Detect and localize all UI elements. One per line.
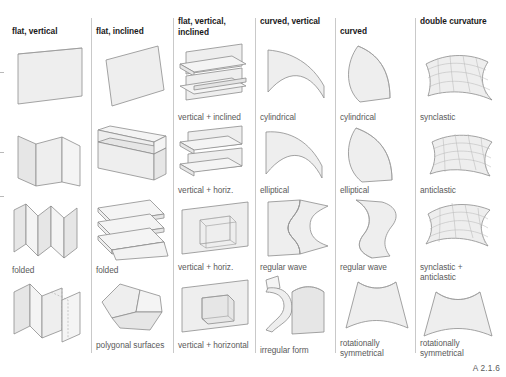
figure-number: A 2.1.6: [473, 363, 500, 373]
caption-vertical-inclined: vertical + inclined: [178, 112, 241, 123]
figure-flat-inclined-bent: [94, 122, 172, 190]
figure-cv-regular-wave: [258, 196, 334, 260]
figure-c-cylindrical: [338, 40, 412, 108]
column-divider-4: [335, 18, 336, 353]
column-divider-2: [173, 18, 174, 353]
column-divider-5: [415, 18, 416, 353]
figure-plane-with-open-box: [176, 198, 256, 260]
figure-sheet: flat, vertical flat, inclined flat, vert…: [0, 0, 506, 377]
caption-polygonal-surfaces: polygonal surfaces: [96, 340, 168, 350]
figure-plane-with-closed-box: [176, 276, 256, 338]
caption-flat-inclined-folded: folded: [96, 265, 118, 276]
caption-c-cylindrical: cylindrical: [340, 112, 376, 123]
figure-polygonal-surfaces: [94, 278, 172, 338]
figure-flat-vertical-zigzag-pair: [10, 278, 90, 352]
bleed-mark: [0, 72, 4, 73]
figure-c-rotational: [338, 274, 414, 336]
figure-c-regular-wave: [338, 196, 414, 262]
bleed-mark: [0, 152, 4, 153]
figure-c-elliptical: [338, 124, 412, 186]
column-header-flat-inclined: flat, inclined: [96, 26, 174, 37]
caption-dc-rotational: rotationally symmetrical: [420, 338, 496, 358]
caption-dc-anticlastic: anticlastic: [420, 185, 456, 196]
figure-flat-inclined-plane: [94, 42, 170, 112]
caption-flat-vertical-folded: folded: [12, 265, 34, 276]
figure-flat-vertical-folded-three: [12, 128, 88, 190]
column-divider-1: [91, 18, 92, 353]
caption-c-elliptical: elliptical: [340, 185, 369, 196]
figure-dc-anticlastic: [418, 128, 502, 184]
figure-flat-inclined-stacked-folds: [94, 198, 172, 262]
figure-dc-rotational: [418, 286, 498, 344]
figure-vertical-inclined-shelves: [176, 42, 254, 106]
figure-flat-vertical-accordion: [8, 200, 90, 262]
caption-c-regular-wave: regular wave: [340, 262, 387, 273]
figure-cv-cylindrical: [258, 42, 332, 108]
caption-vertical-horizontal-3: vertical + horizontal: [178, 340, 250, 350]
caption-vertical-horizontal-2: vertical + horiz.: [178, 262, 233, 273]
figure-cv-irregular-form: [258, 274, 334, 340]
caption-vertical-horizontal-1: vertical + horiz.: [178, 185, 233, 196]
bleed-mark: [0, 196, 4, 197]
column-header-curved-vertical: curved, vertical: [260, 16, 332, 27]
figure-dc-synclastic-anticlastic: [418, 198, 502, 256]
column-header-flat-vertical: flat, vertical: [12, 26, 90, 37]
figure-flat-vertical-plane: [12, 44, 88, 110]
column-header-flat-vertical-inclined: flat, vertical, inclined: [178, 16, 250, 37]
caption-cv-cylindrical: cylindrical: [260, 112, 296, 123]
figure-vertical-horizontal-shelves: [176, 126, 254, 182]
caption-dc-synclastic: synclastic: [420, 112, 455, 123]
caption-c-rotational: rotationally symmetrical: [340, 338, 414, 358]
caption-cv-irregular-form: irregular form: [260, 345, 309, 356]
caption-dc-synclastic-anticlastic: synclastic + anticlastic: [420, 262, 500, 282]
figure-dc-synclastic: [418, 46, 502, 108]
figure-cv-elliptical: [258, 124, 332, 186]
caption-cv-regular-wave: regular wave: [260, 262, 307, 273]
column-header-curved: curved: [340, 26, 412, 37]
column-header-double-curvature: double curvature: [420, 16, 500, 27]
caption-cv-elliptical: elliptical: [260, 185, 289, 196]
